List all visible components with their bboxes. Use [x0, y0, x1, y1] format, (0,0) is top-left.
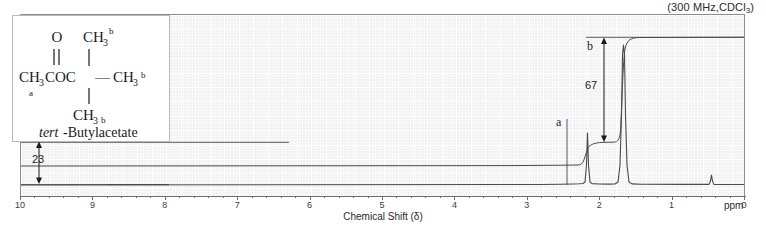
- axis-minor-tick: [556, 196, 557, 198]
- axis-minor-tick: [425, 196, 426, 198]
- axis-minor-tick: [585, 196, 586, 198]
- axis-minor-tick: [324, 196, 325, 198]
- peak-label-b: b: [587, 39, 593, 54]
- axis-minor-tick: [49, 196, 50, 198]
- axis-minor-tick: [483, 196, 484, 198]
- axis-minor-tick: [266, 196, 267, 198]
- axis-tick-label: 7: [235, 200, 240, 210]
- axis-tick-label: 2: [597, 200, 602, 210]
- axis-minor-tick: [34, 196, 35, 198]
- structure-top-ch3: CH: [83, 29, 104, 45]
- peak-label-a: a: [556, 115, 561, 130]
- structure-chain-subscript: 3: [39, 77, 44, 88]
- axis-minor-tick: [715, 196, 716, 198]
- axis-minor-tick: [411, 196, 412, 198]
- axis-tick-label: 5: [379, 200, 384, 210]
- nmr-spectrum-figure: (300 MHz,CDCl3): [0, 0, 766, 229]
- axis-minor-tick: [339, 196, 340, 198]
- axis-tick-label: 1: [669, 200, 674, 210]
- axis-title: Chemical Shift (δ): [0, 211, 766, 222]
- structure-top-ch3-label-b: b: [109, 26, 114, 36]
- axis-minor-tick: [614, 196, 615, 198]
- axis-minor-tick: [686, 196, 687, 198]
- axis-tick-label: 6: [307, 200, 312, 210]
- structure-drawing: O CH 3 b CH 3 COC a — CH 3 b: [13, 16, 169, 141]
- axis-minor-tick: [150, 196, 151, 198]
- conditions-suffix: ): [750, 1, 754, 13]
- structure-atom-oxygen: O: [52, 29, 63, 45]
- structure-top-ch3-subscript: 3: [103, 37, 108, 48]
- axis-minor-tick: [440, 196, 441, 198]
- axis-minor-tick: [541, 196, 542, 198]
- axis-minor-tick: [469, 196, 470, 198]
- axis-minor-tick: [78, 196, 79, 198]
- axis-minor-tick: [628, 196, 629, 198]
- structure-right-ch3-label-b: b: [141, 70, 146, 80]
- axis-minor-tick: [194, 196, 195, 198]
- axis-minor-tick: [643, 196, 644, 198]
- axis-tick-label: 8: [162, 200, 167, 210]
- structure-bond-dash: —: [94, 69, 111, 85]
- axis-minor-tick: [295, 196, 296, 198]
- axis-tick-label: 9: [90, 200, 95, 210]
- axis-minor-tick: [252, 196, 253, 198]
- structure-bottom-ch3-label-b: b: [101, 115, 106, 125]
- axis-minor-tick: [107, 196, 108, 198]
- axis-minor-tick: [570, 196, 571, 198]
- compound-name-rest: -Butylacetate: [63, 125, 138, 140]
- conditions-prefix: (300 MHz,CDCl: [667, 1, 745, 13]
- axis-minor-tick: [498, 196, 499, 198]
- x-axis: 109876543210: [20, 196, 746, 210]
- axis-minor-tick: [63, 196, 64, 198]
- axis-minor-tick: [701, 196, 702, 198]
- axis-minor-tick: [121, 196, 122, 198]
- structure-chain-coc: COC: [45, 69, 76, 85]
- axis-tick-label: 4: [452, 200, 457, 210]
- spectrometer-conditions: (300 MHz,CDCl3): [667, 1, 754, 15]
- axis-line: [20, 196, 746, 197]
- axis-minor-tick: [730, 196, 731, 198]
- axis-minor-tick: [136, 196, 137, 198]
- structure-right-ch3-subscript: 3: [133, 77, 138, 88]
- axis-minor-tick: [208, 196, 209, 198]
- compound-name-italic: tert: [39, 125, 60, 140]
- axis-tick-label: 10: [15, 200, 25, 210]
- integration-value-a: 23: [32, 153, 44, 165]
- structure-right-ch3: CH: [113, 69, 134, 85]
- axis-minor-tick: [223, 196, 224, 198]
- axis-tick-label: 3: [524, 200, 529, 210]
- axis-minor-tick: [281, 196, 282, 198]
- axis-minor-tick: [179, 196, 180, 198]
- structure-inset: O CH 3 b CH 3 COC a — CH 3 b: [12, 15, 170, 142]
- axis-unit-label: ppm: [724, 200, 743, 211]
- axis-minor-tick: [396, 196, 397, 198]
- structure-chain-ch: CH: [19, 69, 40, 85]
- structure-bottom-ch3: CH: [73, 107, 94, 123]
- integration-measure-b: [601, 38, 607, 143]
- integration-value-b: 67: [585, 79, 597, 91]
- axis-minor-tick: [657, 196, 658, 198]
- axis-minor-tick: [368, 196, 369, 198]
- axis-minor-tick: [512, 196, 513, 198]
- structure-label-a: a: [29, 88, 33, 98]
- axis-minor-tick: [353, 196, 354, 198]
